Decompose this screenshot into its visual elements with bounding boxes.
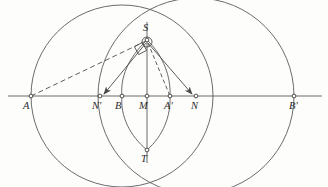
point-label-M: M — [139, 101, 148, 112]
point-dot-Bp — [292, 94, 296, 98]
segment-S-to-Np — [104, 43, 146, 94]
point-dot-N — [194, 94, 198, 98]
point-label-B: B — [115, 101, 121, 112]
point-label-Np: N' — [92, 101, 101, 112]
point-dot-S — [145, 38, 149, 42]
point-dot-A — [29, 94, 33, 98]
point-label-S: S — [143, 23, 148, 34]
geometry-canvas — [0, 0, 328, 187]
geometry-figure: A N' B M A' N B' S T — [0, 0, 328, 187]
point-label-Ap: A' — [164, 101, 173, 112]
point-dot-M — [145, 94, 149, 98]
point-label-Bp: B' — [289, 101, 298, 112]
lens-arc-right — [147, 40, 170, 150]
point-label-A: A — [23, 101, 29, 112]
point-dot-Np — [98, 94, 102, 98]
point-dot-B — [120, 94, 124, 98]
point-dot-Ap — [168, 94, 172, 98]
point-label-N: N — [191, 101, 198, 112]
point-label-T: T — [141, 154, 147, 165]
right-circle — [98, 0, 294, 187]
point-dot-T — [145, 148, 149, 152]
segment-A-to-S — [31, 41, 146, 96]
segment-S-to-Ap — [148, 43, 170, 96]
